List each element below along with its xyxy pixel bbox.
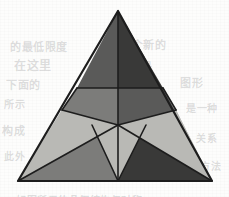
- figure-page: 的最低限度一个新的在这里可以说是下面的图形所示是一种构成关系此外方法如图所示的几…: [0, 0, 229, 197]
- facet-group: [18, 11, 212, 181]
- geometric-figure: [0, 0, 229, 197]
